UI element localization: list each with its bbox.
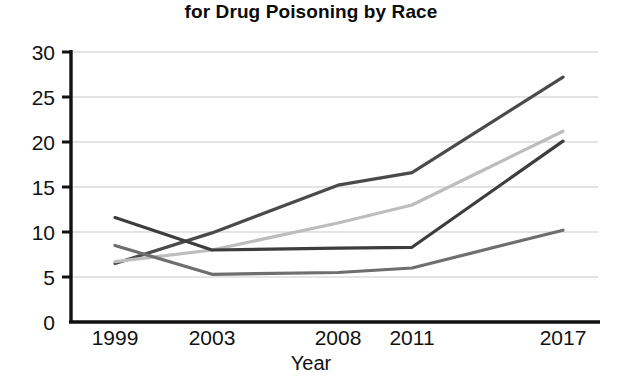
y-tick-label-25: 25 [32, 86, 55, 109]
data-line-series-1 [115, 77, 563, 263]
x-tick-label-2017: 2017 [540, 326, 587, 349]
x-tick-label-2008: 2008 [315, 326, 362, 349]
y-tick-label-20: 20 [32, 131, 55, 154]
y-tick-label-10: 10 [32, 221, 55, 244]
x-tick-label-2011: 2011 [389, 326, 434, 349]
x-axis-title: Year [0, 352, 622, 375]
x-axis-labels: 1999 2003 2008 2011 2017 [92, 326, 587, 349]
y-tick-label-5: 5 [43, 266, 55, 289]
y-tick-label-0: 0 [43, 311, 55, 334]
plot-area: 30 25 20 15 10 5 0 1999 2003 2008 2011 2… [0, 0, 622, 390]
data-series-group [115, 77, 563, 274]
x-tick-label-2003: 2003 [189, 326, 236, 349]
gridlines [71, 52, 598, 277]
y-tick-label-30: 30 [32, 41, 55, 64]
y-axis-labels: 30 25 20 15 10 5 0 [32, 41, 55, 334]
x-tick-label-1999: 1999 [92, 326, 139, 349]
data-line-series-3 [115, 141, 563, 250]
line-chart-figure: for Drug Poisoning by Race 30 [0, 0, 622, 390]
y-tick-label-15: 15 [32, 176, 55, 199]
